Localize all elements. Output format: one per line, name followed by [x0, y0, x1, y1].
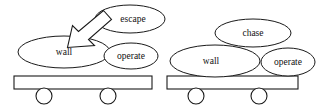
right-node-chase-label: chase [242, 28, 263, 38]
left-node-escape-label: escape [120, 14, 145, 24]
diagram-svg: wall operate escape chase wall operate [0, 0, 330, 111]
left-wheel-front [36, 88, 52, 104]
right-node-operate-label: operate [274, 57, 302, 67]
left-wheel-rear [100, 88, 116, 104]
left-node-operate-label: operate [117, 51, 145, 61]
right-wheel-rear [251, 88, 267, 104]
left-node-wall-label: wall [56, 47, 73, 57]
right-cart-group: chase wall operate [167, 19, 315, 104]
right-node-wall-label: wall [203, 56, 220, 66]
right-chassis [167, 76, 298, 89]
left-cart-group: wall operate escape [14, 5, 165, 104]
right-wheel-front [188, 88, 204, 104]
diagram-canvas: wall operate escape chase wall operate [0, 0, 330, 111]
left-chassis [14, 76, 152, 89]
